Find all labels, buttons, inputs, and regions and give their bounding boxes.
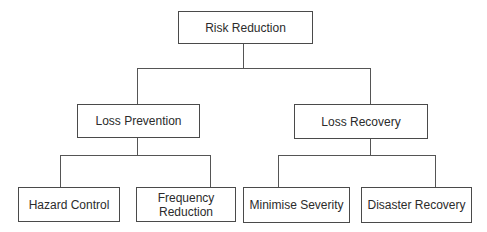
connector-to-hazard-control <box>60 155 61 188</box>
node-label: Minimise Severity <box>249 198 343 212</box>
connector-loss-prevention-down <box>137 137 138 155</box>
connector-to-disaster-recovery <box>435 155 436 188</box>
node-label-line-2: Reduction <box>159 205 213 219</box>
connector-to-frequency-reduction <box>210 155 211 188</box>
node-loss-prevention: Loss Prevention <box>77 104 200 138</box>
node-label: Risk Reduction <box>205 21 286 35</box>
node-label: Hazard Control <box>29 198 110 212</box>
node-label: Loss Recovery <box>321 115 400 129</box>
connector-level1-bar <box>137 68 371 69</box>
connector-root-down <box>243 43 244 68</box>
node-frequency-reduction: Frequency Reduction <box>136 187 236 222</box>
node-risk-reduction: Risk Reduction <box>178 11 313 44</box>
connector-to-loss-prevention <box>137 68 138 105</box>
node-hazard-control: Hazard Control <box>18 187 120 222</box>
connector-to-loss-recovery <box>370 68 371 105</box>
connector-loss-recovery-down <box>370 138 371 155</box>
node-label: Disaster Recovery <box>367 198 465 212</box>
node-disaster-recovery: Disaster Recovery <box>361 187 472 223</box>
connector-to-minimise-severity <box>278 155 279 188</box>
node-minimise-severity: Minimise Severity <box>243 187 350 223</box>
node-label-line-1: Frequency <box>158 191 215 205</box>
node-label: Loss Prevention <box>95 114 181 128</box>
connector-recovery-bar <box>278 155 436 156</box>
connector-prevention-bar <box>60 155 211 156</box>
node-loss-recovery: Loss Recovery <box>294 104 428 139</box>
